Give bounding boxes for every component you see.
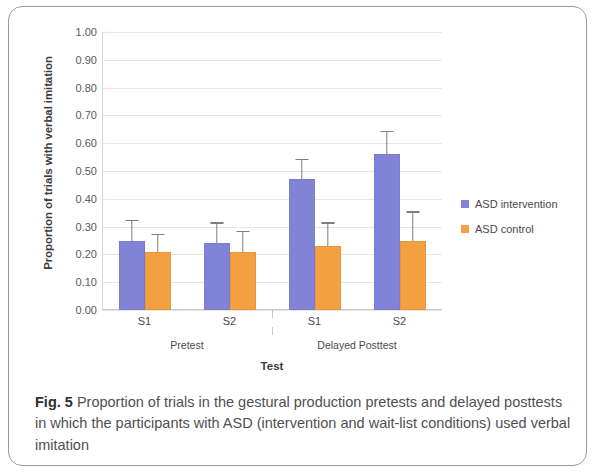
- bar-fill: [374, 154, 400, 310]
- x-sub-tick-label: S2: [357, 315, 442, 327]
- bar-subgroup: [357, 32, 442, 310]
- y-tick-label: 0.40: [57, 193, 97, 205]
- error-bar: [412, 213, 413, 241]
- legend-swatch-icon: [461, 200, 469, 208]
- y-axis-tick-labels: 0.000.100.200.300.400.500.600.700.800.90…: [57, 25, 97, 317]
- y-tick-label: 0.80: [57, 82, 97, 94]
- bar-subgroup: [102, 32, 187, 310]
- error-bar: [386, 132, 387, 154]
- y-tick-label: 0.50: [57, 165, 97, 177]
- error-bar-cap: [210, 222, 223, 223]
- figure-frame: Proportion of trials with verbal imitati…: [8, 6, 587, 466]
- x-axis-title: Test: [102, 360, 442, 372]
- error-bar-cap: [151, 234, 164, 235]
- y-tick-label: 0.20: [57, 248, 97, 260]
- bar-fill: [289, 179, 315, 310]
- y-tick-label: 0.70: [57, 109, 97, 121]
- error-bar-cap: [125, 220, 138, 221]
- x-group-tick-label: Pretest: [102, 339, 272, 351]
- x-tick-group: S1S2: [102, 315, 272, 327]
- bar-fill: [315, 246, 341, 310]
- y-tick-label: 0.90: [57, 54, 97, 66]
- bar-group: [102, 32, 272, 310]
- x-tick-group: S1S2: [272, 315, 442, 327]
- chart-legend: ASD interventionASD control: [461, 198, 558, 248]
- x-sub-tick-label: S1: [272, 315, 357, 327]
- y-tick-label: 1.00: [57, 26, 97, 38]
- y-tick-label: 0.30: [57, 221, 97, 233]
- legend-swatch-icon: [461, 225, 469, 233]
- bar[interactable]: [315, 32, 341, 310]
- bar[interactable]: [145, 32, 171, 310]
- legend-label: ASD control: [475, 223, 534, 235]
- x-axis-sub-ticks: S1S2S1S2: [102, 315, 442, 327]
- figure-caption: Fig. 5 Proportion of trials in the gestu…: [35, 392, 575, 456]
- y-tick-label: 0.10: [57, 276, 97, 288]
- x-sub-tick-label: S2: [187, 315, 272, 327]
- bar-groups: [102, 32, 442, 310]
- bar-subgroup: [272, 32, 357, 310]
- error-bar: [301, 160, 302, 179]
- error-bar: [157, 235, 158, 252]
- y-tick-label: 0.00: [57, 304, 97, 316]
- x-axis-group-ticks: PretestDelayed Posttest: [102, 339, 442, 351]
- y-axis-title: Proportion of trials with verbal imitati…: [42, 18, 54, 308]
- chart-area: Proportion of trials with verbal imitati…: [9, 7, 595, 399]
- bar[interactable]: [230, 32, 256, 310]
- bar-fill: [230, 252, 256, 310]
- bar-fill: [204, 243, 230, 310]
- bar[interactable]: [289, 32, 315, 310]
- error-bar-cap: [380, 131, 393, 132]
- error-bar-cap: [236, 231, 249, 232]
- bar-fill: [119, 241, 145, 311]
- legend-item[interactable]: ASD control: [461, 223, 558, 235]
- error-bar-cap: [295, 159, 308, 160]
- error-bar: [216, 224, 217, 243]
- bar-fill: [145, 252, 171, 310]
- bar-subgroup: [187, 32, 272, 310]
- x-sub-tick-label: S1: [102, 315, 187, 327]
- plot-area: [102, 32, 442, 310]
- bar[interactable]: [119, 32, 145, 310]
- figure-caption-text: Proportion of trials in the gestural pro…: [35, 394, 570, 453]
- bar-fill: [400, 241, 426, 311]
- bar-group: [272, 32, 442, 310]
- figure-number: Fig. 5: [35, 394, 73, 410]
- bar[interactable]: [204, 32, 230, 310]
- bar[interactable]: [400, 32, 426, 310]
- legend-item[interactable]: ASD intervention: [461, 198, 558, 210]
- error-bar-cap: [321, 222, 334, 223]
- x-group-tick-label: Delayed Posttest: [272, 339, 442, 351]
- error-bar: [242, 232, 243, 251]
- y-tick-label: 0.60: [57, 137, 97, 149]
- legend-label: ASD intervention: [475, 198, 558, 210]
- error-bar-cap: [406, 211, 419, 212]
- bar[interactable]: [374, 32, 400, 310]
- error-bar: [327, 224, 328, 246]
- error-bar: [131, 221, 132, 240]
